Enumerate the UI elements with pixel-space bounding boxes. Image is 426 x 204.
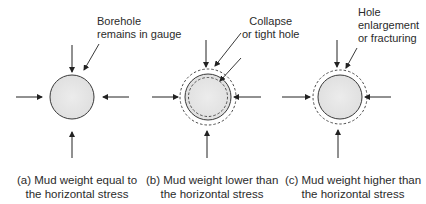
panel-c [282,40,391,158]
caption-b-line1: (b) Mud weight lower than [146,173,278,187]
annotation-leader [84,44,99,70]
annotation-leader-inner [220,58,241,81]
annotation-leader [346,48,357,68]
caption-c: (c) Mud weight higher than the horizonta… [283,173,423,201]
caption-a: (a) Mud weight equal to the horizontal s… [14,173,140,201]
borehole-circle [318,75,362,119]
panel-b [152,33,261,158]
annotation-c: Hole enlargement or fracturing [358,6,419,45]
annotation-a-line2: remains in gauge [97,28,181,41]
caption-b-line2: the horizontal stress [146,187,278,201]
annotation-c-line1: Hole [358,6,419,19]
annotation-b-line1: Collapse [242,15,299,28]
caption-a-line2: the horizontal stress [14,187,140,201]
caption-c-line2: the horizontal stress [283,187,423,201]
caption-a-line1: (a) Mud weight equal to [14,173,140,187]
annotation-a: Borehole remains in gauge [97,15,181,41]
annotation-c-line3: or fracturing [358,32,419,45]
annotation-a-line1: Borehole [97,15,181,28]
annotation-b-line2: or tight hole [242,28,299,41]
caption-b: (b) Mud weight lower than the horizontal… [146,173,278,201]
panel-a [16,44,129,158]
annotation-b: Collapse or tight hole [242,15,299,41]
caption-c-line1: (c) Mud weight higher than [283,173,423,187]
annotation-leader-outer [215,33,241,66]
borehole-circle [50,75,94,119]
borehole-circle [185,74,231,120]
annotation-c-line2: enlargement [358,19,419,32]
